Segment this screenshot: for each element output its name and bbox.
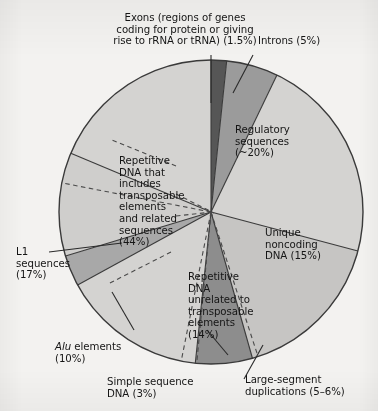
figure-canvas: Exons (regions of genes coding for prote… <box>0 0 378 411</box>
label-repetitive-dna-includes: Repetitive DNA that includes transposabl… <box>119 155 199 248</box>
label-repetitive-dna-unrelated: Repetitive DNA unrelated to transposable… <box>188 271 260 341</box>
label-alu-elements: Alu elements (10%) <box>55 341 180 364</box>
label-regulatory-sequences: Regulatory sequences (~20%) <box>235 124 340 159</box>
label-introns: Introns (5%) <box>258 35 368 47</box>
alu-italic-text: Alu <box>55 341 71 352</box>
label-unique-noncoding-dna: Unique noncoding DNA (15%) <box>265 227 370 262</box>
label-large-segment-duplications: Large-segment duplications (5–6%) <box>245 374 375 397</box>
label-simple-sequence-dna: Simple sequence DNA (3%) <box>107 376 232 399</box>
label-l1-sequences: L1 sequences (17%) <box>16 246 96 281</box>
